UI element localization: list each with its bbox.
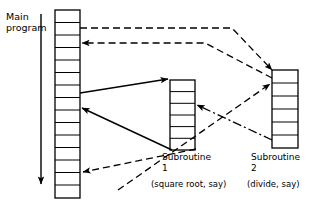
subroutine-2-column xyxy=(272,70,298,148)
subroutine-2-label: Subroutine 2 xyxy=(251,152,300,173)
subroutine-2-description: (divide, say) xyxy=(247,179,299,189)
program-subroutine-diagram: Main program Subroutine 1 (square root, … xyxy=(0,0,313,203)
main-program-label: Main program xyxy=(6,11,47,33)
connector-return-sub1-to-main xyxy=(82,108,172,150)
connector-call-sub1-upper xyxy=(80,79,168,93)
subroutine-1-description: (square root, say) xyxy=(151,179,226,189)
connector-sub2-to-sub1 xyxy=(197,105,272,140)
connector-call-sub2-upper xyxy=(80,28,272,70)
connector-return-sub2-to-main xyxy=(82,43,272,78)
subroutine-1-label: Subroutine 1 xyxy=(162,152,211,173)
main-program-column xyxy=(55,10,80,198)
